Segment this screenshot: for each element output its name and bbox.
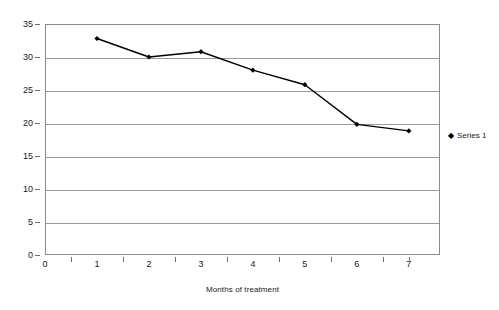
x-axis-tick-label: 5 <box>302 259 307 270</box>
x-axis-tick-mark <box>279 257 280 262</box>
y-axis-tick-mark <box>35 189 40 190</box>
y-axis-tick-label: 35 <box>23 20 33 29</box>
x-axis-tick-label: 2 <box>146 259 151 270</box>
x-axis-ticks: 01234567 <box>45 257 440 273</box>
y-axis-tick-label: 25 <box>23 86 33 95</box>
y-axis-tick-label: 0 <box>28 251 33 260</box>
x-axis-tick-mark <box>383 257 384 262</box>
y-axis-tick-label: 20 <box>23 119 33 128</box>
legend: ◆ Series 1 <box>448 131 486 141</box>
y-axis-tick-label: 15 <box>23 152 33 161</box>
x-axis-tick-mark <box>123 257 124 262</box>
y-axis-tick-mark <box>35 222 40 223</box>
x-axis-tick-label: 4 <box>250 259 255 270</box>
legend-diamond-marker-icon: ◆ <box>448 131 454 141</box>
data-point-marker <box>250 68 255 73</box>
x-axis-tick-label: 0 <box>42 259 47 270</box>
series-layer <box>45 24 440 255</box>
data-point-marker <box>198 49 203 54</box>
y-axis-tick-mark <box>35 90 40 91</box>
x-axis-tick-mark <box>175 257 176 262</box>
line-chart: Mean depression scores 05101520253035 01… <box>0 0 499 310</box>
legend-item-label: Series 1 <box>457 131 486 141</box>
x-axis-title: Months of treatment <box>45 284 440 295</box>
series-line <box>97 39 409 131</box>
data-point-marker <box>406 128 411 133</box>
x-axis-tick-label: 1 <box>94 259 99 270</box>
x-axis-tick-label: 3 <box>198 259 203 270</box>
data-point-marker <box>94 36 99 41</box>
x-axis-tick-mark <box>331 257 332 262</box>
data-point-marker <box>146 54 151 59</box>
y-axis-tick-mark <box>35 123 40 124</box>
y-axis-ticks: 05101520253035 <box>0 24 40 255</box>
y-axis-tick-label: 30 <box>23 53 33 62</box>
y-axis-tick-mark <box>35 24 40 25</box>
y-axis-tick-mark <box>35 57 40 58</box>
y-axis-tick-label: 10 <box>23 185 33 194</box>
x-axis-tick-label: 6 <box>354 259 359 270</box>
y-axis-tick-mark <box>35 156 40 157</box>
x-axis-tick-mark <box>71 257 72 262</box>
x-axis-tick-mark <box>409 257 410 262</box>
y-axis-tick-mark <box>35 255 40 256</box>
x-axis-tick-mark <box>227 257 228 262</box>
y-axis-tick-label: 5 <box>28 218 33 227</box>
